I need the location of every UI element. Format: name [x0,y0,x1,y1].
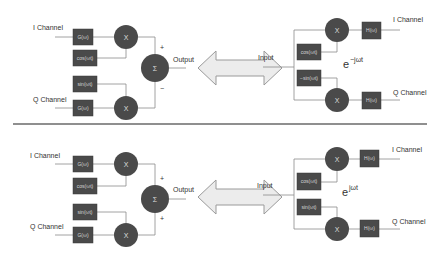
i-channel-output-label: I Channel [393,16,423,23]
q-channel-input-label: Q Channel [30,223,64,231]
panel-top: I Channel Q Channel G(ω) cos(ωt) [33,16,427,120]
rx-multiplier-i: X [325,147,349,171]
exponent-label: e jωt [342,184,358,198]
q-channel-input-label: Q Channel [33,96,67,104]
summer: Σ [141,54,169,82]
exponent-label: e −jωt [343,56,363,70]
svg-text:cos(ωt): cos(ωt) [301,49,318,55]
svg-text:−jωt: −jωt [350,56,363,64]
svg-text:X: X [335,226,340,233]
svg-text:sin(ωt): sin(ωt) [77,81,92,87]
sin-carrier-block: sin(ωt) [73,76,97,92]
i-channel-input-label: I Channel [33,24,63,31]
plus-sign: + [160,175,164,182]
receiver-top: Input cos(ωt) −sin(ωt) X [258,16,427,112]
cos-carrier-block: cos(ωt) [73,50,97,66]
plus-sign: + [160,44,164,51]
q-channel-output-label: Q Channel [393,89,427,97]
minus-sign: − [160,85,164,92]
svg-text:X: X [124,34,129,41]
svg-text:X: X [335,27,340,34]
multiplier-q: X [114,96,138,120]
output-label: Output [173,56,194,64]
svg-text:X: X [335,97,340,104]
svg-text:H(ω): H(ω) [364,225,375,231]
panel-bottom: I Channel Q Channel G(ω) cos(ωt) sin(ωt) [30,146,426,247]
svg-text:jωt: jωt [348,184,358,192]
g-filter-q: G(ω) [73,227,93,243]
svg-text:G(ω): G(ω) [77,34,88,40]
svg-text:e: e [343,58,349,70]
input-label: Input [257,182,273,190]
h-filter-i: H(ω) [360,150,379,167]
rx-cos-carrier-block: cos(ωt) [297,173,321,190]
h-filter-q: H(ω) [362,92,381,109]
rx-multiplier-q: X [325,217,349,241]
h-filter-i: H(ω) [362,22,381,39]
transmitter-bottom: I Channel Q Channel G(ω) cos(ωt) sin(ωt) [30,152,194,247]
svg-text:Σ: Σ [153,65,158,72]
svg-text:H(ω): H(ω) [366,27,377,33]
svg-text:e: e [342,186,348,198]
multiplier-i: X [114,152,138,176]
svg-text:cos(ωt): cos(ωt) [77,55,94,61]
svg-text:G(ω): G(ω) [77,105,88,111]
iq-diagram: I Channel Q Channel G(ω) cos(ωt) [0,0,441,259]
svg-text:G(ω): G(ω) [77,232,88,238]
svg-text:H(ω): H(ω) [366,97,377,103]
svg-text:X: X [124,232,129,239]
svg-text:cos(ωt): cos(ωt) [77,183,94,189]
rx-cos-carrier-block: cos(ωt) [297,44,321,60]
svg-text:G(ω): G(ω) [77,161,88,167]
svg-text:sin(ωt): sin(ωt) [77,209,92,215]
svg-text:Σ: Σ [153,196,158,203]
rx-neg-sin-carrier-block: −sin(ωt) [297,70,321,86]
rx-multiplier-q: X [325,88,349,112]
h-filter-q: H(ω) [360,220,379,237]
svg-text:sin(ωt): sin(ωt) [301,204,316,210]
svg-text:X: X [124,161,129,168]
summer: Σ [141,185,169,213]
input-label: Input [258,54,274,62]
sin-carrier-block: sin(ωt) [73,204,97,220]
receiver-bottom: Input cos(ωt) sin(ωt) X X [257,146,426,241]
multiplier-q: X [114,223,138,247]
q-channel-output-label: Q Channel [392,218,426,226]
g-filter-i: G(ω) [73,29,93,45]
cos-carrier-block: cos(ωt) [73,178,97,194]
svg-text:cos(ωt): cos(ωt) [301,178,318,184]
output-label: Output [173,186,194,194]
transmitter-top: I Channel Q Channel G(ω) cos(ωt) [33,24,194,120]
svg-text:H(ω): H(ω) [364,155,375,161]
svg-text:X: X [124,105,129,112]
i-channel-output-label: I Channel [392,146,422,153]
plus-sign-2: + [160,215,164,222]
svg-text:X: X [335,156,340,163]
rx-multiplier-i: X [325,18,349,42]
g-filter-q: G(ω) [73,100,93,116]
svg-text:−sin(ωt): −sin(ωt) [300,75,318,81]
i-channel-input-label: I Channel [30,152,60,159]
g-filter-i: G(ω) [73,156,93,172]
multiplier-i: X [114,25,138,49]
rx-sin-carrier-block: sin(ωt) [297,199,321,215]
